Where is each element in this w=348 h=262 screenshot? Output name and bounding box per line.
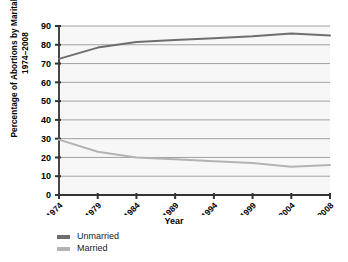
- x-axis-tick-labels: 19741979198419891994199920042008: [44, 200, 335, 215]
- x-axis-label: Year: [0, 216, 348, 226]
- chart-figure: Percentage of Abortions by Marital Statu…: [0, 0, 348, 262]
- x-axis-tick-label: 1999: [238, 200, 258, 215]
- x-axis-tick-label: 1994: [199, 200, 219, 215]
- legend-item-unmarried: Unmarried: [57, 231, 119, 242]
- legend-item-married: Married: [57, 243, 119, 254]
- legend-swatch-married: [57, 247, 70, 251]
- x-axis-tick-label: 1974: [44, 200, 64, 215]
- x-axis-tick-label: 1979: [83, 200, 103, 215]
- y-axis-tick-label: 80: [41, 40, 51, 50]
- y-axis-tick-label: 30: [41, 134, 51, 144]
- plot-area: 0102030405060708090 19741979198419891994…: [0, 0, 348, 215]
- y-axis-tick-label: 0: [46, 190, 51, 200]
- legend-swatch-unmarried: [57, 235, 70, 239]
- y-axis-ticks: 0102030405060708090: [41, 21, 61, 200]
- chart-legend: Unmarried Married: [57, 231, 119, 255]
- y-axis-tick-label: 10: [41, 171, 51, 181]
- y-axis-tick-label: 50: [41, 96, 51, 106]
- x-axis-tick-label: 1989: [160, 200, 180, 215]
- plot-background: [59, 26, 330, 195]
- x-axis-tick-label: 1984: [122, 200, 142, 215]
- legend-label-unmarried: Unmarried: [77, 231, 119, 242]
- y-axis-tick-label: 70: [41, 59, 51, 69]
- x-axis-tick-label: 2004: [276, 200, 296, 215]
- legend-label-married: Married: [77, 243, 108, 254]
- y-axis-tick-label: 40: [41, 115, 51, 125]
- y-axis-tick-label: 60: [41, 78, 51, 88]
- x-axis-tick-label: 2008: [315, 200, 335, 215]
- y-axis-tick-label: 90: [41, 21, 51, 31]
- y-axis-tick-label: 20: [41, 153, 51, 163]
